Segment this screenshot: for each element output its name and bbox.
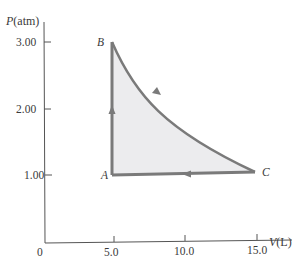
- pv-diagram: [0, 0, 306, 267]
- x-axis: [45, 240, 292, 243]
- point-a-label: A: [101, 170, 108, 182]
- point-b-label: B: [97, 37, 104, 49]
- origin-label: 0: [37, 247, 43, 259]
- x-axis-label: V(L): [269, 236, 292, 248]
- x-tick-label-15: 15.0: [247, 245, 267, 257]
- point-c-label: C: [262, 167, 270, 179]
- x-tick-label-10: 10.0: [174, 246, 194, 258]
- y-axis: [44, 22, 45, 243]
- arrow-down-right-icon: [152, 87, 161, 95]
- y-tick-label-1: 1.00: [24, 170, 44, 182]
- y-axis-label: P(atm): [6, 15, 39, 27]
- y-tick-label-3: 3.00: [16, 37, 36, 49]
- cycle-area: [112, 42, 255, 175]
- y-tick-label-2: 2.00: [16, 104, 36, 116]
- x-tick-label-5: 5.0: [104, 247, 118, 259]
